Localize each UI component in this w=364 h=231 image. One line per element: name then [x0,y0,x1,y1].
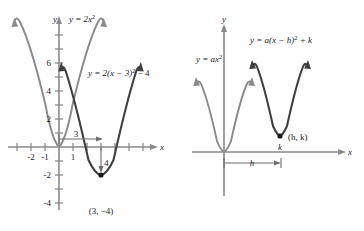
right-base-equation-label: y = ax2 [195,53,222,65]
right-base-equation-prefix: y = ax [195,54,219,64]
left-base-equation-exponent: 2 [92,13,95,20]
right-horizontal-shift-label: h [250,158,255,168]
right-vertical-offset-label: k [278,142,283,152]
left-x-tick-labels: -2 -1 1 [27,152,75,162]
left-shifted-equation-label: y = 2(x − 3)2 − 4 [87,67,150,79]
right-shifted-equation-prefix: y = a(x − h) [249,35,294,45]
left-y-tick-label-2: 2 [47,114,52,124]
right-shifted-equation-label: y = a(x − h)2 + k [249,34,313,46]
right-vertex-coordinate-label: (h, k) [288,132,308,142]
left-horizontal-shift-arrowhead [96,137,103,142]
left-y-tick-label-4: 4 [47,86,52,96]
right-base-equation-exponent: 2 [219,53,222,60]
left-panel-concrete-example: 3 4 -2 -1 1 6 4 2 -2 -4 x y y = 2x2 [0,0,182,231]
left-y-tick-labels: 6 4 2 -2 -4 [44,58,52,208]
right-y-axis-name: y [221,14,226,24]
left-base-equation-label: y = 2x2 [68,13,95,25]
left-vertex-coordinate-label: (3, −4) [89,206,114,216]
left-vertex-point [98,172,103,177]
left-shifted-equation-suffix: − 4 [135,68,150,78]
left-x-axis-arrowhead [150,144,158,150]
right-vertex-point [277,133,282,138]
right-horizontal-shift-annotation: h [224,158,281,168]
left-y-tick-label-neg4: -4 [44,198,52,208]
left-x-axis-name: x [159,142,164,152]
left-y-tick-label-neg2: -2 [44,170,52,180]
right-horizontal-shift-arrowhead [274,161,281,166]
left-y-tick-label-6: 6 [47,58,52,68]
left-axes [8,16,158,210]
right-shifted-parabola-curve [253,64,307,136]
right-panel-general-form: h k (h, k) x y y = ax2 y = a(x − h)2 + k [182,0,364,231]
parabola-translation-figure: 3 4 -2 -1 1 6 4 2 -2 -4 x y y = 2x2 [0,0,364,231]
left-x-tick-label-neg2: -2 [27,152,35,162]
left-vertical-shift-label: 4 [104,158,109,168]
right-x-axis-name: x [347,147,352,157]
right-shifted-equation-suffix: + k [297,35,313,45]
right-x-axis-arrowhead [338,149,346,155]
left-shifted-equation-prefix: y = 2(x − 3) [87,68,132,78]
left-x-tick-label-1: 1 [71,152,76,162]
left-x-tick-label-neg1: -1 [41,152,49,162]
left-y-axis-name: y [52,14,57,24]
left-vertical-shift-arrowhead [99,166,104,173]
left-base-equation-text: y = 2x [68,14,92,24]
left-horizontal-shift-label: 3 [74,129,79,139]
right-y-axis-arrowhead [221,24,227,32]
